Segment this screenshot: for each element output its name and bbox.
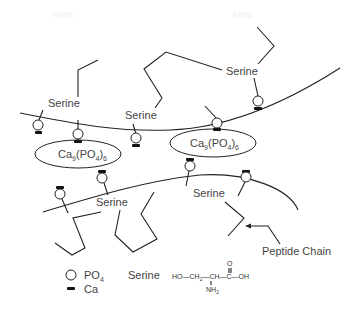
legend-serine-label: Serine (128, 269, 160, 281)
peptide-chain-top-right (257, 27, 274, 64)
phosphate-icon (253, 96, 263, 106)
phosphate-icon (97, 173, 107, 183)
calcium-icon (74, 140, 82, 143)
phosphate-calcium-group (97, 170, 108, 195)
biomineralization-diagram: ASRI ASRI Serine Serine Serine Serine Se… (0, 0, 346, 311)
phosphate-icon (33, 120, 43, 130)
svg-text:Ca9(PO4)6: Ca9(PO4)6 (58, 148, 107, 162)
arrow-head-icon (245, 224, 251, 229)
peptide-chain-bottom-right (225, 202, 244, 236)
phosphate-calcium-group (253, 78, 263, 110)
watermark-left: ASRI (52, 10, 73, 20)
phosphate-icon (212, 118, 222, 128)
peptide-chain-bottom-left (55, 212, 101, 255)
phosphate-icon (241, 172, 251, 182)
svg-text:HO—CH2—CH—C—OH: HO—CH2—CH—C—OH (172, 273, 249, 282)
legend: PO4 Ca Serine HO—CH2—CH—C—OH O NH2 (66, 260, 249, 295)
svg-text:O: O (227, 260, 233, 267)
legend-calcium-icon (67, 287, 75, 290)
phosphate-calcium-group (55, 186, 68, 213)
phosphate-calcium-group (73, 129, 83, 143)
peptide-chain-callout: Peptide Chain (245, 224, 331, 258)
serine-label-4: Serine (96, 196, 128, 208)
calcium-icon (35, 131, 42, 134)
serine-label-3: Serine (226, 65, 258, 77)
serine-structural-formula: HO—CH2—CH—C—OH O NH2 (172, 260, 249, 295)
calcium-icon (254, 107, 262, 110)
serine-label-5: Serine (193, 187, 225, 199)
svg-text:Ca9(PO4)6: Ca9(PO4)6 (190, 137, 239, 151)
phosphate-calcium-group (131, 124, 141, 147)
svg-text:NH2: NH2 (206, 286, 219, 295)
peptide-chain-top-center (144, 52, 222, 108)
phosphate-icon (55, 189, 65, 199)
calcium-phosphate-complex-left: Ca9(PO4)6 (35, 140, 121, 168)
legend-po4-label: PO4 (84, 269, 104, 283)
phosphate-calcium-group (238, 170, 251, 196)
serine-label-2: Serine (125, 109, 157, 121)
phosphate-icon (73, 129, 83, 139)
calcium-icon (213, 128, 221, 131)
legend-ca-label: Ca (84, 283, 99, 295)
lower-backbone (43, 175, 298, 212)
watermark-right: ASRI (232, 10, 253, 20)
phosphate-icon (131, 133, 141, 143)
phosphate-calcium-group (205, 106, 222, 131)
legend-phosphate-icon (66, 270, 76, 280)
peptide-chain-top-left (78, 60, 98, 97)
serine-label-1: Serine (48, 97, 80, 109)
phosphate-calcium-group (185, 158, 195, 186)
calcium-phosphate-complex-right: Ca9(PO4)6 (170, 129, 256, 157)
calcium-icon (132, 144, 140, 147)
peptide-chain-label: Peptide Chain (262, 245, 331, 257)
phosphate-calcium-group (33, 110, 43, 134)
phosphate-icon (185, 161, 195, 171)
